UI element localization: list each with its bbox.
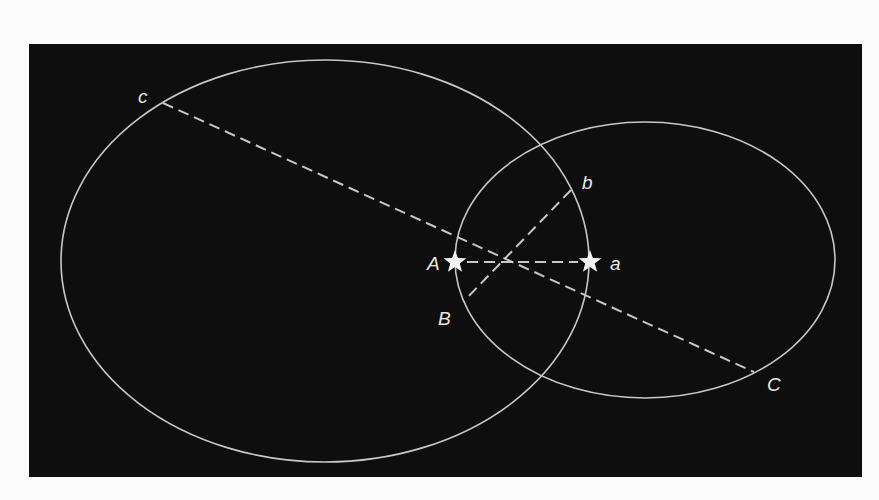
star-icon [579,250,602,272]
label-c: c [138,86,148,107]
figure: A a b B c C [0,0,879,500]
small-ellipse-orbit [455,122,835,398]
dashed-line-c-to-C [163,103,754,372]
label-b: b [582,172,593,193]
label-a: a [610,253,621,274]
dashed-line-b-to-B [465,190,571,300]
orbit-diagram: A a b B c C [0,0,879,500]
label-A: A [426,253,440,274]
label-C: C [767,374,781,395]
label-B: B [438,308,451,329]
